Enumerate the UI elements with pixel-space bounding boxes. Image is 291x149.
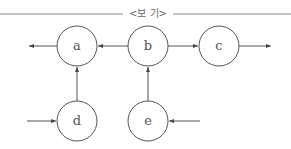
header: <보 기> [0, 8, 291, 19]
node-d: d [57, 101, 97, 141]
node-c: c [199, 26, 239, 66]
node-d-label: d [73, 113, 81, 128]
node-e: e [128, 101, 168, 141]
node-c-label: c [215, 38, 222, 53]
diagram-canvas: <보 기> a b c d e [0, 0, 291, 149]
node-e-label: e [144, 113, 152, 128]
node-b: b [128, 26, 168, 66]
header-title: <보 기> [129, 8, 167, 19]
node-a: a [57, 26, 97, 66]
node-b-label: b [144, 38, 152, 53]
node-a-label: a [73, 38, 81, 53]
